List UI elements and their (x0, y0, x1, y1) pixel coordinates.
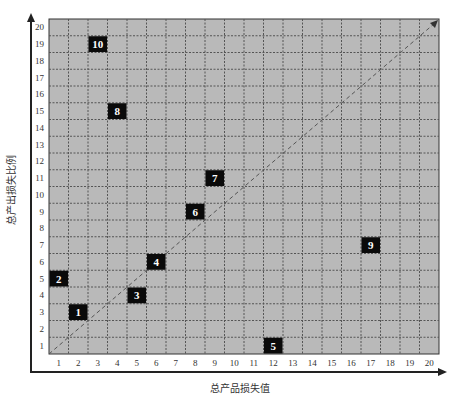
y-tick-label: 8 (40, 223, 45, 233)
data-marker-9: 9 (362, 237, 381, 253)
data-marker-7: 7 (206, 170, 225, 186)
x-tick-label: 16 (347, 358, 357, 368)
marker-label: 1 (76, 306, 82, 318)
y-tick-label: 3 (40, 307, 45, 317)
y-tick-label: 7 (40, 240, 45, 250)
marker-label: 7 (212, 172, 218, 184)
y-tick-label: 10 (35, 190, 45, 200)
data-marker-2: 2 (50, 271, 69, 287)
y-tick-label: 11 (35, 173, 44, 183)
x-tick-label: 12 (269, 358, 278, 368)
y-axis-label: 总产出损失比例 (5, 155, 17, 225)
y-axis-ticks: 1234567891011121314151617181920 (35, 22, 45, 350)
x-tick-label: 10 (230, 358, 240, 368)
x-tick-label: 2 (76, 358, 81, 368)
x-tick-label: 7 (174, 358, 179, 368)
y-tick-label: 6 (40, 257, 45, 267)
x-tick-label: 17 (366, 358, 376, 368)
x-tick-label: 9 (213, 358, 218, 368)
x-tick-label: 13 (288, 358, 298, 368)
y-tick-label: 13 (35, 140, 45, 150)
data-marker-10: 10 (89, 36, 108, 52)
x-tick-label: 11 (249, 358, 258, 368)
marker-label: 8 (115, 105, 121, 117)
x-axis-arrow-icon (438, 368, 447, 376)
y-tick-label: 4 (40, 290, 45, 300)
scatter-chart: 12345678910 1234567891011121314151617181… (0, 0, 456, 401)
x-tick-label: 19 (405, 358, 415, 368)
x-axis-ticks: 1234567891011121314151617181920 (57, 358, 435, 368)
y-tick-label: 14 (35, 123, 45, 133)
x-tick-label: 5 (135, 358, 140, 368)
marker-label: 5 (271, 340, 277, 352)
y-tick-label: 1 (40, 341, 45, 351)
x-tick-label: 15 (327, 358, 337, 368)
data-marker-3: 3 (128, 288, 147, 304)
data-marker-6: 6 (186, 204, 205, 220)
y-tick-label: 12 (35, 156, 44, 166)
y-tick-label: 9 (40, 207, 45, 217)
data-marker-5: 5 (264, 338, 283, 354)
y-tick-label: 2 (40, 324, 45, 334)
marker-label: 6 (193, 206, 199, 218)
y-tick-label: 5 (40, 274, 45, 284)
marker-label: 2 (56, 273, 62, 285)
y-tick-label: 16 (35, 89, 45, 99)
x-tick-label: 14 (308, 358, 318, 368)
x-tick-label: 8 (193, 358, 198, 368)
marker-label: 4 (154, 256, 160, 268)
marker-label: 10 (92, 38, 104, 50)
x-tick-label: 6 (154, 358, 159, 368)
data-marker-4: 4 (147, 254, 166, 270)
x-tick-label: 3 (96, 358, 101, 368)
y-axis-arrow-icon (27, 13, 35, 22)
x-tick-label: 4 (115, 358, 120, 368)
y-tick-label: 17 (35, 73, 45, 83)
data-marker-1: 1 (69, 304, 88, 320)
y-tick-label: 20 (35, 22, 45, 32)
marker-label: 3 (134, 289, 140, 301)
x-tick-label: 1 (57, 358, 62, 368)
y-tick-label: 18 (35, 56, 45, 66)
y-tick-label: 19 (35, 39, 45, 49)
x-axis-label: 总产品损失值 (210, 382, 270, 394)
y-tick-label: 15 (35, 106, 45, 116)
data-marker-8: 8 (108, 103, 127, 119)
x-tick-label: 20 (425, 358, 435, 368)
marker-label: 9 (368, 239, 374, 251)
x-tick-label: 18 (386, 358, 396, 368)
